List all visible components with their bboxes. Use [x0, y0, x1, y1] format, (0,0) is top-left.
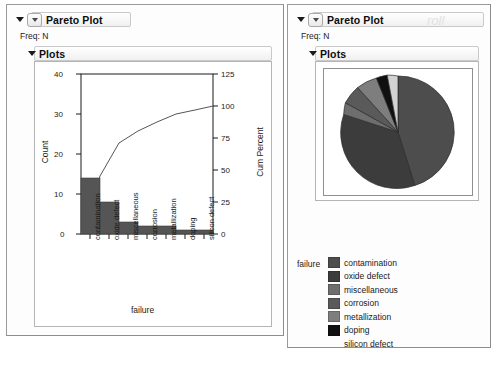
disclosure-triangle-icon[interactable]	[309, 51, 317, 56]
legend-item[interactable]: miscellaneous	[328, 283, 398, 297]
freq-label-left: Freq: N	[20, 31, 48, 41]
legend-swatch-miscellaneous	[328, 284, 340, 295]
pie-frame	[323, 68, 473, 196]
outline-node-pareto-left[interactable]: Pareto Plot	[16, 12, 103, 27]
x-cat-miscellaneous: miscellaneous	[131, 192, 140, 240]
legend-label: miscellaneous	[344, 285, 398, 295]
plots-title-left: Plots	[39, 48, 65, 60]
legend-item[interactable]: oxide defect	[328, 270, 398, 284]
legend-item[interactable]: silicon defect	[328, 337, 398, 351]
y2-tick-25: 25	[221, 198, 230, 207]
legend-swatch-metallization	[328, 311, 340, 322]
legend-item[interactable]: contamination	[328, 256, 398, 270]
plots-frame-left: 40 30 20 10 0 125 100 75 50 25 0 Count C…	[34, 61, 272, 327]
x-cat-corrosion: corrosion	[150, 209, 159, 240]
x-cat-metallization: metallization	[169, 198, 178, 240]
legend-item[interactable]: doping	[328, 324, 398, 338]
outline-node-pareto-right[interactable]: Pareto Plot	[297, 12, 384, 27]
x-axis-title: failure	[131, 305, 154, 315]
plots-strip-left	[34, 46, 272, 61]
y-tick-40: 40	[54, 70, 63, 79]
y-tick-10: 10	[54, 190, 63, 199]
node-toggle-button[interactable]	[27, 13, 42, 27]
legend-label: silicon defect	[344, 339, 393, 349]
y2-axis-title: Cum Percent	[255, 122, 265, 182]
chevron-down-icon	[32, 18, 38, 22]
legend-label: doping	[344, 325, 370, 335]
legend-item[interactable]: metallization	[328, 310, 398, 324]
y-tick-30: 30	[54, 110, 63, 119]
pareto-chart	[35, 62, 271, 326]
legend-label: contamination	[344, 258, 397, 268]
plots-frame-right	[315, 61, 479, 201]
legend-title: failure	[297, 259, 320, 269]
chevron-down-icon	[313, 18, 319, 22]
disclosure-triangle-icon[interactable]	[297, 17, 305, 22]
pie-chart	[324, 69, 472, 195]
x-cat-silicon-defect: silicon defect	[207, 197, 216, 240]
y2-tick-125: 125	[221, 70, 234, 79]
legend-label: oxide defect	[344, 271, 390, 281]
legend-label: corrosion	[344, 298, 379, 308]
panel-title-right: Pareto Plot	[327, 14, 384, 26]
y2-tick-50: 50	[221, 166, 230, 175]
legend-swatch-doping	[328, 325, 340, 336]
watermark-text: roll	[427, 13, 444, 28]
panel-title-left: Pareto Plot	[46, 14, 103, 26]
legend-swatch-oxide-defect	[328, 271, 340, 282]
x-cat-oxide-defect: oxide defect	[112, 200, 121, 240]
outline-node-plots-left[interactable]: Plots	[28, 46, 65, 61]
plots-title-right: Plots	[320, 48, 346, 60]
y-tick-20: 20	[54, 150, 63, 159]
legend-swatch-corrosion	[328, 298, 340, 309]
y-tick-0: 0	[60, 230, 64, 239]
y2-tick-100: 100	[221, 102, 234, 111]
x-cat-contamination: contamination	[93, 193, 102, 240]
y-axis-title: Count	[40, 132, 50, 172]
legend-swatch-contamination	[328, 257, 340, 268]
legend-item[interactable]: corrosion	[328, 297, 398, 311]
legend-item-list: contamination oxide defect miscellaneous…	[328, 256, 398, 351]
disclosure-triangle-icon[interactable]	[16, 17, 24, 22]
legend-swatch-silicon-defect	[328, 338, 340, 349]
disclosure-triangle-icon[interactable]	[28, 51, 36, 56]
freq-label-right: Freq: N	[301, 31, 329, 41]
x-cat-doping: doping	[188, 217, 197, 240]
legend-label: metallization	[344, 312, 391, 322]
y2-tick-0: 0	[221, 230, 225, 239]
pareto-plot-panel-left: Pareto Plot Freq: N Plots	[6, 4, 284, 336]
outline-node-plots-right[interactable]: Plots	[309, 46, 346, 61]
y2-tick-75: 75	[221, 134, 230, 143]
node-toggle-button[interactable]	[308, 13, 323, 27]
